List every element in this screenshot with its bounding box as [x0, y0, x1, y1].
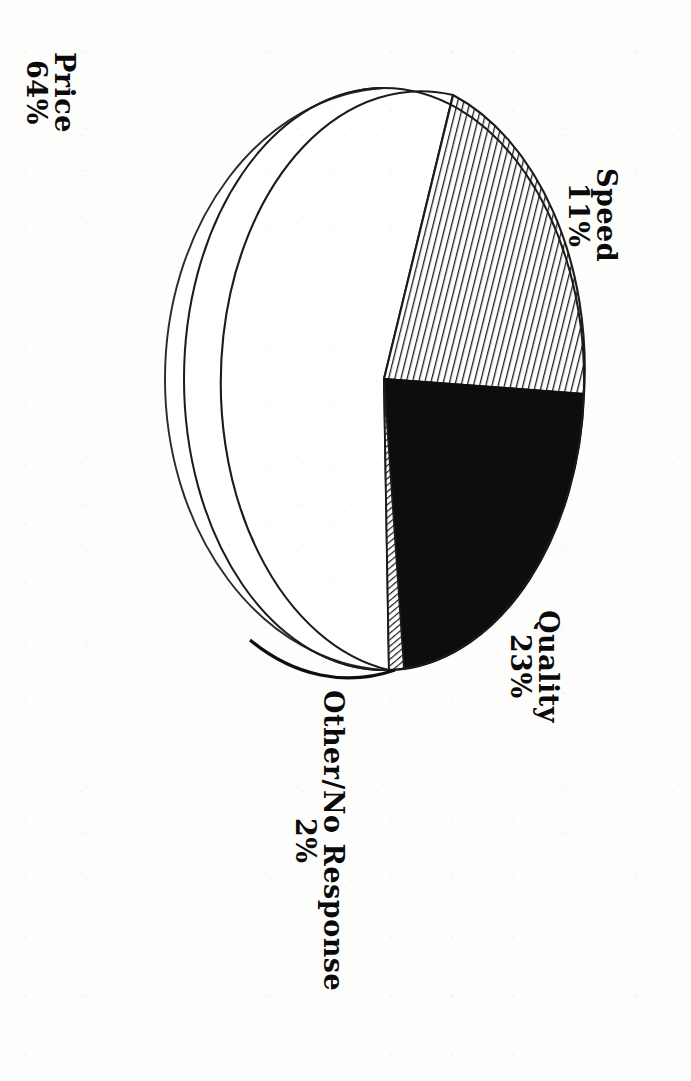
slice-label-other-no-response: Other/No Response 2%: [290, 690, 347, 991]
pie-chart-page: Price 64% Speed 11% Quality 23% Other/No…: [0, 0, 691, 1081]
slice-label-quality: Quality 23%: [505, 610, 562, 723]
slice-label-price: Price 64%: [21, 52, 78, 133]
slice-label-speed: Speed 11%: [563, 168, 620, 262]
slice-label-other-no-response-name: Other/No Response: [319, 690, 347, 991]
slice-label-quality-name: Quality: [534, 610, 562, 723]
slice-label-price-name: Price: [50, 52, 78, 133]
slice-label-other-no-response-percent: 2%: [290, 818, 318, 863]
slice-label-speed-percent: 11%: [563, 183, 591, 248]
slice-label-price-percent: 64%: [21, 60, 49, 125]
slice-label-speed-name: Speed: [592, 168, 620, 262]
slice-label-quality-percent: 23%: [505, 634, 533, 699]
